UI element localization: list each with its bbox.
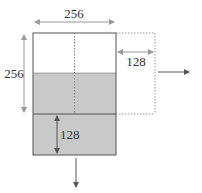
right-shift-label: 128: [126, 54, 146, 69]
width-label: 256: [64, 6, 84, 21]
buffer-diagram: 256 256 128 128: [0, 0, 202, 193]
right-dotted-extension: [116, 33, 155, 114]
down-shift-label: 128: [60, 127, 80, 142]
height-label: 256: [4, 66, 24, 81]
